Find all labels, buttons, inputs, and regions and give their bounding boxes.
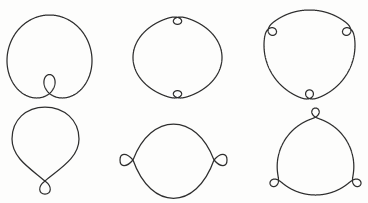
figure-circle-one-inner-loop xyxy=(7,15,92,98)
curve-three-inner-loops xyxy=(264,10,355,99)
curve-teardrop-outer-loop xyxy=(12,107,79,194)
curve-one-inner-loop xyxy=(7,15,92,98)
curve-two-inner-loops xyxy=(133,17,222,98)
diagram-canvas xyxy=(0,0,368,203)
figure-lens-two-outer-loops xyxy=(120,124,227,198)
figure-circle-three-outer-loops xyxy=(270,108,361,195)
figure-circle-three-inner-loops xyxy=(264,10,355,99)
figure-circle-two-inner-loops xyxy=(133,17,222,98)
figure-teardrop-one-outer-loop xyxy=(12,107,79,194)
curve-lens-outer-loops xyxy=(120,124,227,198)
curve-three-outer-loops xyxy=(270,108,361,195)
